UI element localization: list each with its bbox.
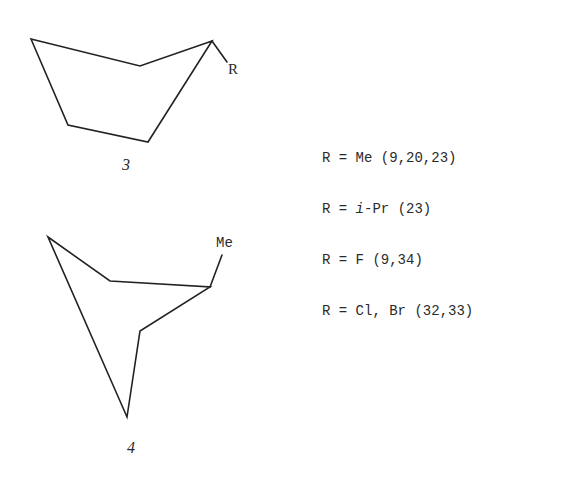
legend-refs: (32,33) xyxy=(406,303,473,319)
legend-refs: (23) xyxy=(389,201,431,217)
structure-canvas xyxy=(0,0,582,480)
legend-group: Cl, Br xyxy=(356,303,406,319)
compound-4-label: 4 xyxy=(127,440,135,456)
legend-prefix: R = xyxy=(322,150,356,166)
legend-group: F xyxy=(356,252,364,268)
legend-group: Me xyxy=(356,150,373,166)
legend-line-me: R = Me (9,20,23) xyxy=(322,150,473,167)
compound-4-ring xyxy=(48,237,210,417)
compound-3-r-bond xyxy=(212,41,227,62)
legend-italic-part: i xyxy=(356,201,364,217)
substituent-legend: R = Me (9,20,23) R = i-Pr (23) R = F (9,… xyxy=(322,116,473,337)
legend-group: -Pr xyxy=(364,201,389,217)
legend-prefix: R = xyxy=(322,303,356,319)
legend-refs: (9,20,23) xyxy=(372,150,456,166)
legend-line-cl-br: R = Cl, Br (32,33) xyxy=(322,303,473,320)
compound-4-substituent-label: Me xyxy=(216,236,233,250)
compound-3-ring xyxy=(31,39,212,142)
compound-3-label: 3 xyxy=(122,157,130,173)
legend-refs: (9,34) xyxy=(364,252,423,268)
legend-line-f: R = F (9,34) xyxy=(322,252,473,269)
legend-line-ipr: R = i-Pr (23) xyxy=(322,201,473,218)
compound-3-substituent-label: R xyxy=(228,62,238,77)
legend-prefix: R = xyxy=(322,252,356,268)
compound-4-me-bond xyxy=(210,255,222,287)
legend-prefix: R = xyxy=(322,201,356,217)
